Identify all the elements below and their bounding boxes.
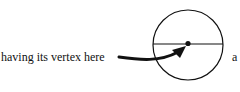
circle-figure [0, 0, 240, 92]
vertex-dot [185, 41, 190, 46]
vertex-label: having its vertex here [1, 50, 105, 65]
arrow-shaft [119, 52, 178, 59]
trailing-text: a [232, 50, 237, 65]
arrow-head-icon [172, 46, 186, 58]
